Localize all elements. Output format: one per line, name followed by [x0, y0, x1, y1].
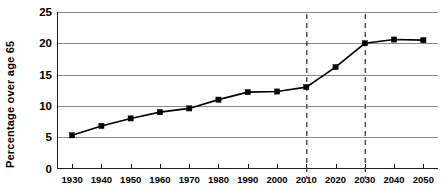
line-chart: Percentage over age 65 0510152025 193019… — [0, 0, 447, 190]
chart-container: Percentage over age 65 0510152025 193019… — [0, 0, 447, 190]
x-tick-label-2030: 2030 — [354, 174, 375, 185]
x-tick-label-1930: 1930 — [62, 174, 83, 185]
chart-background — [0, 0, 447, 190]
y-tick-label-15: 15 — [39, 69, 52, 81]
data-point-1950 — [128, 116, 133, 121]
data-point-2020 — [333, 64, 338, 69]
y-tick-label-5: 5 — [46, 131, 53, 143]
y-tick-label-20: 20 — [39, 37, 52, 49]
x-tick-label-1960: 1960 — [149, 174, 170, 185]
y-tick-label-25: 25 — [39, 6, 52, 18]
data-point-1970 — [187, 106, 192, 111]
data-point-2040 — [392, 37, 397, 42]
data-point-1940 — [99, 123, 104, 128]
data-point-2030 — [362, 41, 367, 46]
data-point-1930 — [70, 133, 75, 138]
x-tick-label-1980: 1980 — [208, 174, 229, 185]
x-tick-label-2010: 2010 — [296, 174, 317, 185]
x-tick-label-1970: 1970 — [179, 174, 200, 185]
x-tick-label-2040: 2040 — [384, 174, 405, 185]
data-point-2050 — [421, 38, 426, 43]
data-point-1990 — [245, 90, 250, 95]
data-point-1960 — [157, 110, 162, 115]
y-axis-title: Percentage over age 65 — [4, 41, 16, 168]
x-tick-label-1990: 1990 — [237, 174, 258, 185]
x-tick-label-2020: 2020 — [325, 174, 346, 185]
x-tick-label-2000: 2000 — [266, 174, 287, 185]
x-tick-label-2050: 2050 — [413, 174, 434, 185]
y-tick-label-0: 0 — [46, 163, 52, 175]
x-tick-label-1950: 1950 — [120, 174, 141, 185]
data-point-2010 — [304, 85, 309, 90]
y-tick-label-10: 10 — [39, 100, 52, 112]
x-tick-label-1940: 1940 — [91, 174, 112, 185]
data-point-1980 — [216, 97, 221, 102]
data-point-2000 — [274, 89, 279, 94]
